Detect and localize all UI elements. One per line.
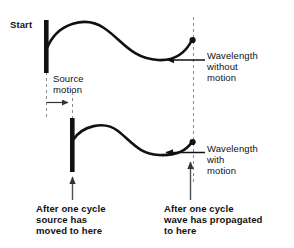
wave-with-motion	[73, 125, 192, 155]
source-motion-label: Source motion	[53, 73, 84, 95]
doppler-wave-diagram: Start Source motion Wavelength without m…	[0, 0, 294, 248]
after-cycle-wave-label: After one cycle wave has propagated to h…	[164, 203, 263, 237]
start-label: Start	[10, 19, 32, 30]
wave-without-motion	[47, 22, 192, 60]
wavefront-marker-without-motion	[190, 37, 196, 43]
wavelength-without-motion-label: Wavelength without motion	[207, 50, 258, 84]
moved-source-bar	[70, 118, 75, 172]
wavelength-with-motion-label: Wavelength with motion	[207, 143, 258, 177]
after-cycle-source-label: After one cycle source has moved to here	[36, 203, 106, 237]
wavefront-marker-with-motion	[190, 139, 196, 145]
